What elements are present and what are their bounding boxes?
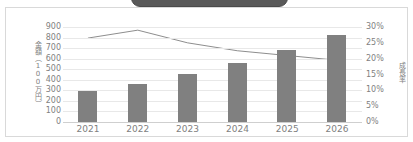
y-axis-tick-label: 900 xyxy=(21,23,61,31)
bar-slot xyxy=(262,27,312,122)
bar[interactable] xyxy=(228,63,247,122)
bar-slot xyxy=(312,27,362,122)
x-axis-tick-label: 2025 xyxy=(262,124,312,135)
y-axis-right-title: 成長率 xyxy=(398,62,405,83)
bar[interactable] xyxy=(78,91,97,122)
y-axis-tick-label: 100 xyxy=(21,107,61,115)
bar-slot xyxy=(213,27,263,122)
bar[interactable] xyxy=(327,35,346,122)
bar[interactable] xyxy=(128,84,147,122)
y2-axis-tick-label: 10% xyxy=(366,86,398,94)
bar[interactable] xyxy=(178,74,197,122)
y2-axis-tick-label: 0% xyxy=(366,118,398,126)
chart-card: 0100200300400500600700800900 金額（100万円） 0… xyxy=(5,7,408,137)
x-axis-tick-label: 2023 xyxy=(163,124,213,135)
y2-axis-tick-label: 30% xyxy=(366,23,398,31)
x-axis-tick-label: 2026 xyxy=(312,124,362,135)
x-axis-tick-label: 2021 xyxy=(63,124,113,135)
bar-slot xyxy=(113,27,163,122)
y-axis-left-title: 金額（100万円） xyxy=(34,41,41,107)
top-banner xyxy=(131,0,288,7)
plot-area xyxy=(63,27,362,122)
y-axis-right: 0%5%10%15%20%25%30% xyxy=(366,27,400,122)
y2-axis-tick-label: 20% xyxy=(366,55,398,63)
y2-axis-tick-label: 25% xyxy=(366,39,398,47)
x-axis-tick-label: 2022 xyxy=(113,124,163,135)
y-axis-tick-label: 0 xyxy=(21,118,61,126)
chart-screenshot: 0100200300400500600700800900 金額（100万円） 0… xyxy=(0,0,413,142)
bar-slot xyxy=(63,27,113,122)
y2-axis-tick-label: 5% xyxy=(366,102,398,110)
x-axis: 202120222023202420252026 xyxy=(63,124,362,136)
bar[interactable] xyxy=(277,50,296,122)
gridline xyxy=(63,122,362,123)
bar-slot xyxy=(163,27,213,122)
y2-axis-tick-label: 15% xyxy=(366,71,398,79)
x-axis-tick-label: 2024 xyxy=(213,124,263,135)
